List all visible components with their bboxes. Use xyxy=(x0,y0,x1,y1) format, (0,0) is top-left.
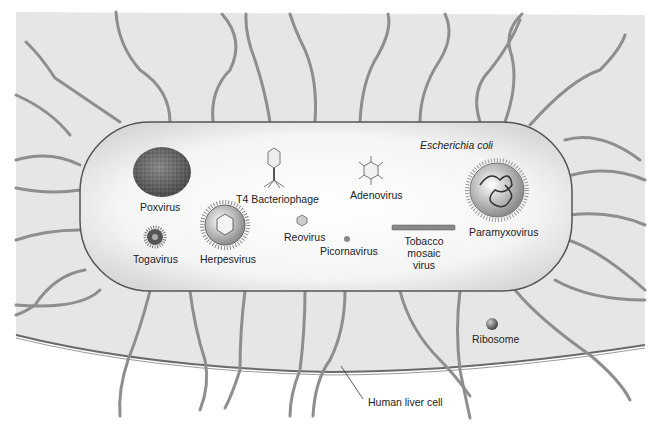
tobacco-mosaic-virus-label: Tobacco mosaic virus xyxy=(402,235,446,271)
picornavirus-illustration xyxy=(344,236,350,242)
adenovirus-label: Adenovirus xyxy=(350,189,403,201)
togavirus-label: Togavirus xyxy=(133,253,178,265)
ribosome-illustration xyxy=(486,318,498,330)
liver-cell-label: Human liver cell xyxy=(368,396,443,408)
poxvirus-illustration xyxy=(133,147,191,197)
tobacco-mosaic-virus-illustration xyxy=(392,225,455,230)
herpesvirus-label: Herpesvirus xyxy=(200,253,256,265)
t4-bacteriophage-label: T4 Bacteriophage xyxy=(236,193,319,205)
ribosome-label: Ribosome xyxy=(472,333,519,345)
picornavirus-label: Picornavirus xyxy=(320,245,378,257)
paramyxovirus-label: Paramyxovirus xyxy=(469,226,538,238)
virus-size-comparison-diagram: Poxvirus T4 Bacteriophage Adenovirus Par… xyxy=(0,0,655,431)
poxvirus-label: Poxvirus xyxy=(140,201,180,213)
ecoli-label: Escherichia coli xyxy=(420,139,493,151)
reovirus-label: Reovirus xyxy=(284,231,325,243)
